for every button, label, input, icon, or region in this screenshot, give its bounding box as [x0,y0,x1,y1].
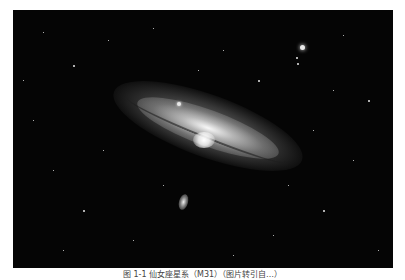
star [368,100,370,102]
star [108,40,109,41]
star [198,70,199,71]
galaxy-core [193,132,215,148]
star [288,185,289,186]
star [233,255,234,256]
star [333,90,334,91]
star [296,57,298,59]
star [313,130,314,131]
star [343,35,344,36]
figure-caption: 图 1-1 仙女座星系（M31）（图片转引自…） [0,269,405,280]
bright-star [300,45,305,50]
bright-star [177,102,181,106]
satellite-galaxy [177,193,190,211]
star [133,240,134,241]
star [73,65,75,67]
star [163,185,164,186]
star [323,210,325,212]
star [273,235,274,236]
star [53,170,54,171]
star [63,250,64,251]
star [43,32,44,33]
star [83,210,85,212]
star [103,150,104,151]
star [378,250,379,251]
star [353,160,354,161]
galaxy-photograph [13,10,393,268]
star [23,80,24,81]
star [297,63,299,65]
star [223,50,224,51]
star [153,28,154,29]
star [33,120,34,121]
star [258,80,260,82]
